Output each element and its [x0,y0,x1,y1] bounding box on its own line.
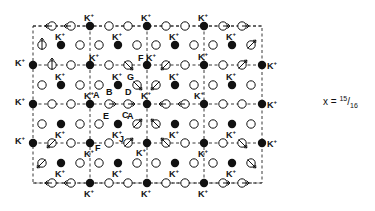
potassium-ion [29,100,37,108]
oriented-molecule [238,179,249,187]
open-site [76,41,84,49]
open-site [219,139,227,147]
open-site [190,81,198,89]
potassium-ion [228,41,236,49]
potassium-ion [228,120,236,128]
potassium-ion [57,120,65,128]
open-site [209,81,217,89]
open-site [76,120,84,128]
open-site [124,179,132,187]
oriented-molecule [219,22,230,30]
potassium-ion [143,22,151,30]
oriented-molecule [238,22,249,30]
open-site [181,139,189,147]
potassium-ion [200,100,208,108]
open-site [48,100,56,108]
potassium-ion [57,41,65,49]
potassium-label: K+ [55,129,65,140]
potassium-ion [143,179,151,187]
open-site [105,179,113,187]
site-tag-label: F [138,54,144,63]
potassium-label: K+ [141,188,151,199]
oriented-molecule [105,100,116,108]
potassium-label: K+ [55,168,65,179]
open-site [152,159,160,167]
open-site [105,139,113,147]
oriented-molecule [219,179,230,187]
open-site [95,41,103,49]
potassium-label: K+ [15,57,25,68]
potassium-label: K+ [226,168,236,179]
oriented-molecule [124,100,135,108]
potassium-ion [258,139,266,147]
open-site [124,22,132,30]
potassium-ion [200,61,208,69]
potassium-ion [171,120,179,128]
x-label-prefix: x = [323,96,339,107]
potassium-ion [86,139,94,147]
site-tag-label: F [95,144,101,153]
potassium-ion [114,41,122,49]
potassium-label: K+ [89,52,99,63]
site-tag-label: B [106,88,113,97]
open-site [95,120,103,128]
potassium-ion [200,22,208,30]
potassium-label: K+ [84,12,94,23]
open-site [67,61,75,69]
potassium-label: K+ [169,168,179,179]
open-site [209,120,217,128]
open-site [247,120,255,128]
site-tag-label: A [93,91,100,100]
potassium-ion [228,81,236,89]
potassium-label: K+ [267,138,277,149]
potassium-label: K+ [169,71,179,82]
potassium-ion [57,81,65,89]
oriented-molecule [247,40,256,49]
potassium-ion [258,100,266,108]
potassium-ion [258,61,266,69]
potassium-label: K+ [169,31,179,42]
oriented-molecule [47,139,56,148]
open-site [219,100,227,108]
oriented-molecule [124,61,133,70]
open-site [162,22,170,30]
open-site [247,81,255,89]
open-site [105,22,113,30]
potassium-label: K+ [84,188,94,199]
potassium-label: K+ [15,96,25,107]
potassium-label: K+ [267,60,277,71]
potassium-ion [200,139,208,147]
open-site [190,41,198,49]
open-site [238,100,246,108]
potassium-ion [228,159,236,167]
potassium-label: K+ [267,99,277,110]
oriented-molecule [45,179,56,187]
oriented-molecule [64,22,75,30]
open-site [181,61,189,69]
oriented-molecule [151,119,160,128]
potassium-ion [86,179,94,187]
oriented-molecule [38,38,46,50]
potassium-label: K+ [198,148,208,159]
lattice-sites [29,22,266,187]
potassium-label: K+ [136,147,146,158]
oriented-molecule [124,138,133,147]
oriented-molecule [64,179,75,187]
oriented-molecule [159,100,170,108]
potassium-label: K+ [198,188,208,199]
x-denominator: 16 [350,102,358,109]
open-site [38,81,46,89]
x-numerator: 15 [339,95,347,102]
potassium-label: K+ [15,135,25,146]
oriented-molecule [45,22,56,30]
open-site [76,159,84,167]
site-tag-label: G [127,73,134,82]
open-site [95,159,103,167]
potassium-label: K+ [112,71,122,82]
potassium-ion [200,179,208,187]
open-site [190,159,198,167]
open-site [219,61,227,69]
open-site [67,100,75,108]
potassium-label: K+ [112,168,122,179]
potassium-label: K+ [55,71,65,82]
